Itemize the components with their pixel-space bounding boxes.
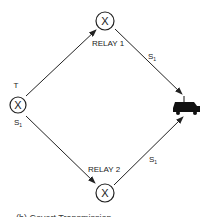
edge-t-relay1 (26, 30, 96, 96)
figure-caption: (b) Covert Transmission (16, 213, 112, 217)
svg-text:X: X (101, 187, 109, 199)
transmitter-signal-label: S1 (14, 118, 22, 128)
relay1-label: RELAY 1 (92, 39, 125, 48)
edge-relay2-vehicle (114, 117, 183, 185)
relay1-node: X RELAY 1 (92, 12, 125, 48)
edge-label-relay2: S1 (149, 155, 157, 165)
svg-text:X: X (14, 99, 22, 111)
svg-text:T: T (14, 81, 19, 90)
transmitter-node: T X S1 (10, 81, 26, 128)
relay2-label: RELAY 2 (88, 165, 121, 174)
edge-label-relay1: S1 (148, 52, 156, 62)
edge-relay1-vehicle (115, 29, 182, 94)
vehicle-icon (173, 96, 200, 115)
svg-text:X: X (101, 15, 109, 27)
edge-t-relay2 (26, 116, 95, 183)
relay-diagram: T X S1 X RELAY 1 X RELAY 2 S1 S1 (b) Cov… (0, 0, 215, 217)
